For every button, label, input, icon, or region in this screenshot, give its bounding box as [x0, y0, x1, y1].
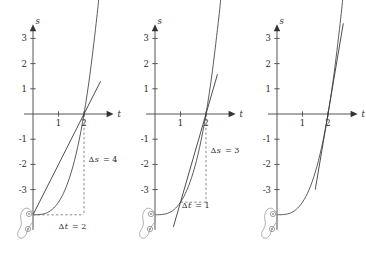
y-tick-label-1: 1 — [22, 84, 27, 94]
series-tangent — [315, 23, 343, 189]
y-tick-label-3: 3 — [144, 33, 149, 43]
y-tick-label-2: 2 — [144, 59, 149, 69]
y-tick-label--1: -1 — [141, 134, 149, 144]
x-axis-label: t — [240, 109, 244, 119]
calculus-secant-tangent-figure: ts12321-1-2-3Δs = 4Δt = 2ts12321-1-2-3Δs… — [0, 0, 366, 254]
ink-blot-dot-core-2 — [271, 228, 273, 230]
annotation-delta-t: Δt = 2 — [59, 222, 87, 231]
x-axis-label: t — [362, 109, 366, 119]
series-curve — [33, 0, 99, 215]
x-tick-label-1: 1 — [178, 118, 183, 128]
y-tick-label-3: 3 — [22, 33, 27, 43]
y-tick-label--2: -2 — [263, 159, 271, 169]
y-tick-label--1: -1 — [19, 134, 27, 144]
ink-blot-dot-core-1 — [28, 213, 30, 215]
y-axis-label: s — [280, 16, 285, 26]
plot-canvas-3: ts12321-1-2-3 — [244, 0, 366, 254]
y-tick-label--2: -2 — [141, 159, 149, 169]
ink-blot-dot-core-1 — [150, 213, 152, 215]
plot-canvas-2: ts12321-1-2-3Δs = 3Δt = 1 — [122, 0, 244, 254]
chart-panel-1: ts12321-1-2-3Δs = 4Δt = 2 — [0, 0, 122, 254]
ink-blot-figure — [18, 208, 34, 238]
series-curve — [155, 0, 221, 215]
x-tick-label-1: 1 — [56, 118, 61, 128]
t-axis-arrowhead — [229, 111, 236, 117]
t-axis-arrowhead — [351, 111, 358, 117]
ink-blot-dot-core-1 — [272, 213, 274, 215]
plot-canvas-1: ts12321-1-2-3Δs = 4Δt = 2 — [0, 0, 122, 254]
y-tick-label--3: -3 — [19, 185, 27, 195]
y-tick-label--1: -1 — [263, 134, 271, 144]
chart-panel-2: ts12321-1-2-3Δs = 3Δt = 1 — [122, 0, 244, 254]
annotation-delta-t: Δt = 1 — [182, 201, 210, 210]
y-tick-label-1: 1 — [144, 84, 149, 94]
ink-blot-figure — [140, 208, 156, 238]
x-axis-label: t — [118, 109, 122, 119]
ink-blot-figure — [262, 208, 278, 238]
y-tick-label-2: 2 — [22, 59, 27, 69]
annotation-delta-s: Δs = 4 — [89, 155, 118, 164]
y-tick-label-1: 1 — [266, 84, 271, 94]
series-curve — [277, 0, 343, 215]
t-axis-arrowhead — [107, 111, 114, 117]
x-tick-label-1: 1 — [300, 118, 305, 128]
y-tick-label-3: 3 — [266, 33, 271, 43]
series-secant — [33, 81, 101, 215]
y-axis-label: s — [158, 16, 163, 26]
annotation-delta-s: Δs = 3 — [211, 146, 240, 155]
y-tick-label--2: -2 — [19, 159, 27, 169]
y-tick-label--3: -3 — [263, 185, 271, 195]
y-tick-label-2: 2 — [266, 59, 271, 69]
chart-panel-3: ts12321-1-2-3 — [244, 0, 366, 254]
y-axis-label: s — [36, 16, 41, 26]
y-tick-label--3: -3 — [141, 185, 149, 195]
ink-blot-dot-core-2 — [27, 228, 29, 230]
ink-blot-dot-core-2 — [149, 228, 151, 230]
